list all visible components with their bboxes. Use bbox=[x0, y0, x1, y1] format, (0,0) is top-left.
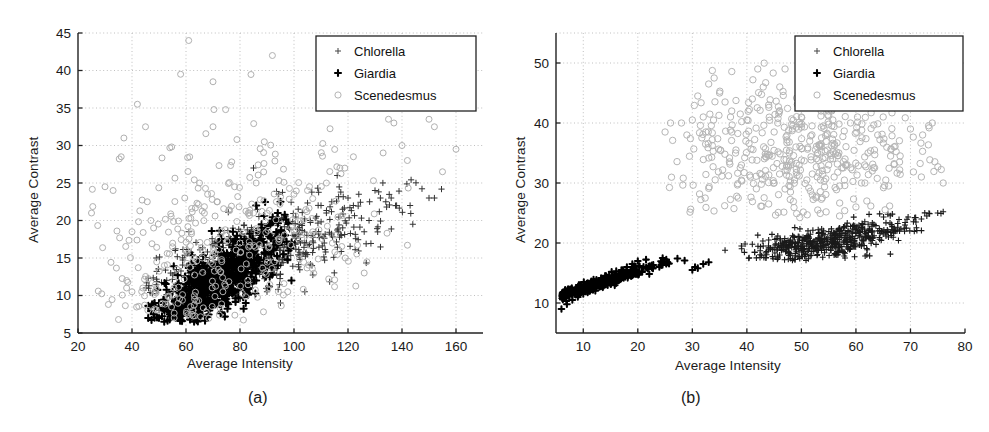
y-tick-label: 10 bbox=[56, 288, 71, 303]
y-tick-label: 50 bbox=[534, 56, 549, 71]
x-tick-label: 160 bbox=[445, 339, 468, 354]
x-tick-label: 10 bbox=[576, 339, 591, 354]
legend-label-chlorella: Chlorella bbox=[833, 44, 885, 59]
x-tick-label: 100 bbox=[283, 339, 306, 354]
panel-a-y-axis-title: Average Contrast bbox=[26, 137, 41, 243]
x-tick-label: 30 bbox=[685, 339, 700, 354]
panel-a: 2040608010012014016051015202530354045Chl… bbox=[0, 0, 495, 432]
figure-scatter-pair: 2040608010012014016051015202530354045Chl… bbox=[0, 0, 989, 432]
panel-b: 10203040506070801020304050ChlorellaGiard… bbox=[495, 0, 989, 432]
legend-label-giardia: Giardia bbox=[354, 66, 397, 81]
y-tick-label: 45 bbox=[56, 26, 71, 41]
y-tick-label: 20 bbox=[56, 213, 71, 228]
panel-b-x-axis-title: Average Intensity bbox=[675, 358, 781, 373]
y-tick-label: 35 bbox=[56, 101, 71, 116]
y-tick-label: 30 bbox=[534, 176, 549, 191]
x-tick-label: 60 bbox=[848, 339, 863, 354]
x-tick-label: 80 bbox=[957, 339, 972, 354]
y-tick-label: 15 bbox=[56, 251, 71, 266]
x-tick-label: 120 bbox=[337, 339, 360, 354]
x-tick-label: 20 bbox=[70, 339, 85, 354]
x-tick-label: 80 bbox=[232, 339, 247, 354]
y-tick-label: 40 bbox=[534, 116, 549, 131]
y-tick-label: 25 bbox=[56, 176, 71, 191]
y-tick-label: 40 bbox=[56, 63, 71, 78]
panel-b-y-axis-title: Average Contrast bbox=[513, 137, 528, 243]
x-tick-label: 20 bbox=[630, 339, 645, 354]
y-tick-label: 20 bbox=[534, 236, 549, 251]
panel-b-caption: (b) bbox=[681, 389, 701, 407]
x-tick-label: 40 bbox=[124, 339, 139, 354]
panel-b-plot: 10203040506070801020304050ChlorellaGiard… bbox=[495, 0, 989, 385]
legend-label-scenedesmus: Scenedesmus bbox=[833, 88, 916, 103]
legend-label-chlorella: Chlorella bbox=[354, 44, 406, 59]
x-tick-label: 140 bbox=[391, 339, 414, 354]
panel-a-caption: (a) bbox=[248, 389, 268, 407]
x-tick-label: 60 bbox=[178, 339, 193, 354]
legend: ChlorellaGiardiaScenedesmus bbox=[316, 36, 476, 111]
x-tick-label: 50 bbox=[794, 339, 809, 354]
legend-label-giardia: Giardia bbox=[833, 66, 876, 81]
x-tick-label: 40 bbox=[739, 339, 754, 354]
panel-a-plot: 2040608010012014016051015202530354045Chl… bbox=[0, 0, 495, 385]
panel-a-x-axis-title: Average Intensity bbox=[187, 356, 293, 371]
x-tick-label: 70 bbox=[903, 339, 918, 354]
series-chlorella bbox=[722, 209, 946, 264]
legend: ChlorellaGiardiaScenedesmus bbox=[795, 36, 963, 111]
y-tick-label: 10 bbox=[534, 296, 549, 311]
y-tick-label: 30 bbox=[56, 138, 71, 153]
legend-label-scenedesmus: Scenedesmus bbox=[354, 88, 437, 103]
y-tick-label: 5 bbox=[63, 326, 71, 341]
